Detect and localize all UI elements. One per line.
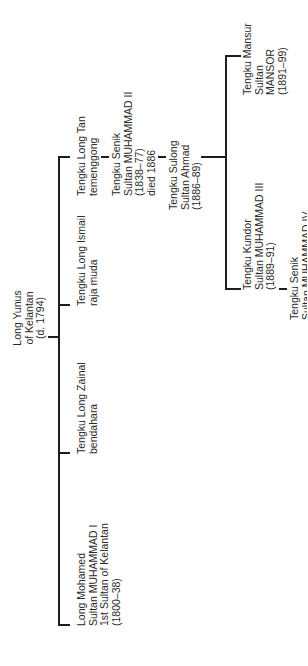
node-long-mohamed: Long Mohamed Sultan MUHAMMAD I 1st Sulta… [76,523,122,626]
node-senik-muhammad-ii: Tengku Senik Sultan MUHAMMAD II (1838–77… [111,92,157,196]
connector-kundor-senik-iv [279,289,287,291]
node-line: died 1886 [146,92,158,196]
node-line: Tengku Senik [289,211,301,320]
node-line: Tengku Mansur [242,23,254,95]
family-tree-diagram: Long Yunus of Kelantan (d. 1794) Long Mo… [0,0,307,666]
connector-sulong-children [201,157,226,159]
node-line: Tengku Long Ismail [76,216,88,306]
node-line: Tengku Kundor [242,183,254,290]
node-long-ismail: Tengku Long Ismail raja muda [76,216,99,306]
connector-tick-long-tan [58,157,70,159]
connector-tick-kundor [225,289,241,291]
node-line: raja muda [88,216,100,306]
node-line: temenggong [88,116,100,196]
node-line: bendahara [88,362,100,454]
node-long-zainal: Tengku Long Zainal bendahara [76,362,99,454]
connector-senik-sulong [158,157,166,159]
connector-long-tan-senik [101,157,109,159]
connector-tick-long-zainal [58,453,70,455]
node-line: (1886–89) [191,141,203,210]
node-long-tan: Tengku Long Tan temenggong [76,116,99,196]
node-senik-muhammad-iv: Tengku Senik Sultan MUHAMMAD IV [289,211,307,320]
connector-tick-long-mohamed [58,625,70,627]
connector-tick-long-ismail [58,305,70,307]
node-line: Tengku Sulong [168,141,180,210]
node-mansur-sultan-mansor: Tengku Mansur Sultan MANSOR (1891–99) [242,23,288,95]
node-line: Long Yunus [12,288,24,348]
node-line: (1838–77) [134,92,146,196]
node-line: Tengku Long Zainal [76,362,88,454]
node-kundor-muhammad-iii: Tengku Kundor Sultan MUHAMMAD III (1889–… [242,183,277,290]
node-line: (1889–91) [265,183,277,290]
connector-siblings [58,156,60,626]
node-line: (d. 1794) [35,288,47,348]
node-line: Tengku Long Tan [76,116,88,196]
node-line: Sultan MUHAMMAD IV [301,211,308,320]
node-sulong-sultan-ahmad: Tengku Sulong Sultan Ahmad (1886–89) [168,141,203,210]
connector-root [48,337,58,339]
node-line: Long Mohamed [76,523,88,626]
node-line: 1st Sultan of Kelantan [99,523,111,626]
node-line: Tengku Senik [111,92,123,196]
node-line: MANSOR [265,23,277,95]
node-line: (1800–38) [111,523,123,626]
node-line: (1891–99) [277,23,289,95]
connector-sulong-siblings [225,56,227,290]
node-long-yunus: Long Yunus of Kelantan (d. 1794) [12,288,47,348]
connector-tick-mansur [225,56,241,58]
